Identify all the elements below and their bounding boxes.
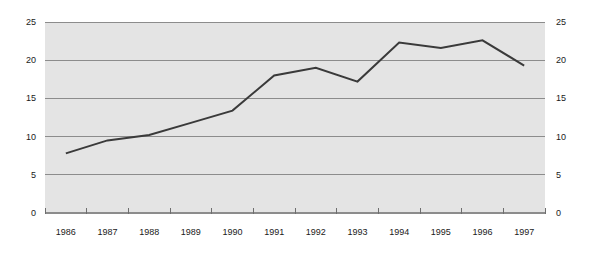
x-axis-tick-label-1989: 1989 [169,227,213,237]
x-axis-tick-label-1990: 1990 [211,227,255,237]
right-axis-tick-label-25: 25 [556,17,578,27]
right-axis-tick-label-10: 10 [556,132,578,142]
right-axis-tick-label-20: 20 [556,55,578,65]
x-axis-tick-label-1986: 1986 [44,227,88,237]
left-axis-tick-label-5: 5 [14,170,36,180]
x-axis-tick-label-1992: 1992 [294,227,338,237]
plot-area-group [45,22,545,213]
left-axis-tick-label-20: 20 [14,55,36,65]
plot-area-background [45,22,545,213]
chart-canvas [0,0,594,263]
right-axis-tick-label-5: 5 [556,170,578,180]
left-axis-tick-label-25: 25 [14,17,36,27]
x-axis-tick-label-1995: 1995 [419,227,463,237]
left-axis-tick-label-0: 0 [14,208,36,218]
x-axis-tick-label-1993: 1993 [336,227,380,237]
x-axis-tick-label-1991: 1991 [252,227,296,237]
left-axis-tick-label-15: 15 [14,93,36,103]
x-axis-tick-label-1988: 1988 [127,227,171,237]
x-axis-tick-label-1997: 1997 [502,227,546,237]
line-chart: 0510152025 0510152025 198619871988198919… [0,0,594,263]
left-axis-tick-label-10: 10 [14,132,36,142]
x-axis-tick-label-1987: 1987 [86,227,130,237]
right-axis-tick-label-15: 15 [556,93,578,103]
right-axis-tick-label-0: 0 [556,208,578,218]
x-axis-tick-label-1994: 1994 [377,227,421,237]
x-axis-tick-label-1996: 1996 [461,227,505,237]
